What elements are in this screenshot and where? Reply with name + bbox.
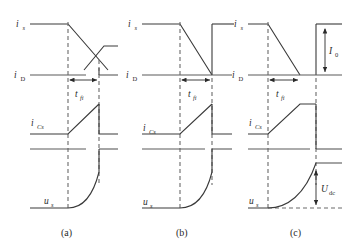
panel-b-label-id: i D <box>126 70 138 82</box>
panel-a-label-ics: i Cs <box>31 118 44 130</box>
panel-b-ics-label: i <box>143 123 146 133</box>
panel-b: i s i D i Cs u s t fi (b) <box>126 19 234 239</box>
panel-c-ics-label: i <box>249 118 252 128</box>
panel-a-tfi-sub: fi <box>80 94 84 101</box>
panel-c-voltage-trace <box>248 163 342 208</box>
panel-b-label-tfi: t fi <box>188 89 197 101</box>
panel-c-label-us: u s <box>249 196 259 208</box>
panel-a: i s i D i Cs u s t fi (a) <box>14 19 118 239</box>
panel-c-label-udc: U dc <box>321 184 335 196</box>
panel-a-caption: (a) <box>61 227 72 239</box>
panel-c-label-ics: i Cs <box>249 118 262 130</box>
panel-c-us-sub: s <box>256 201 259 208</box>
panel-c-udc-label: U <box>321 184 329 194</box>
panel-a-source-current-trace <box>30 24 118 70</box>
panel-b-is-label: i <box>128 19 131 29</box>
panel-b-caption: (b) <box>176 227 188 239</box>
panel-a-label-us: u s <box>44 196 54 208</box>
waveform-figure: i s i D i Cs u s t fi (a) <box>0 0 349 249</box>
panel-c-is-label: i <box>234 19 237 29</box>
panel-c-udc-sub: dc <box>329 189 335 196</box>
panel-c-is-sub: s <box>241 24 244 31</box>
panel-c-ics-sub: Cs <box>255 123 262 130</box>
panel-a-voltage-trace <box>30 149 99 208</box>
panel-a-device-current-axis <box>30 68 118 75</box>
panel-a-is-sub: s <box>23 24 26 31</box>
panel-c-label-is: i s <box>234 19 244 31</box>
panel-a-id-label: i <box>14 70 17 80</box>
panel-b-label-is: i s <box>128 19 138 31</box>
panel-c-i0-sub: 0 <box>335 51 338 58</box>
panel-c-label-id: i D <box>232 70 244 82</box>
panel-b-is-sub: s <box>135 24 138 31</box>
panel-c-us-label: u <box>249 196 254 206</box>
panel-a-ics-label: i <box>31 118 34 128</box>
panel-c-tfi-label: t <box>276 89 279 99</box>
panel-c-id-sub: D <box>239 75 244 82</box>
panel-c-i0-label: I <box>328 46 333 56</box>
panel-b-label-ics: i Cs <box>143 123 156 135</box>
panel-b-id-sub: D <box>133 75 138 82</box>
panel-a-label-id: i D <box>14 70 26 82</box>
panel-c-label-i0: I 0 <box>328 46 338 58</box>
panel-a-us-label: u <box>44 196 49 206</box>
panel-b-ics-sub: Cs <box>149 128 156 135</box>
panel-a-tfi-label: t <box>75 89 78 99</box>
panel-b-tfi-label: t <box>188 89 191 99</box>
panel-a-ics-sub: Cs <box>37 123 44 130</box>
panel-c-tfi-sub: fi <box>281 94 285 101</box>
panel-a-label-tfi: t fi <box>75 89 84 101</box>
panel-b-source-current-trace <box>142 24 234 75</box>
panel-b-voltage-trace <box>142 149 212 208</box>
panel-b-id-label: i <box>126 70 129 80</box>
panel-b-us-label: u <box>143 197 148 207</box>
panel-c-id-label: i <box>232 70 235 80</box>
panel-a-us-sub: s <box>51 201 54 208</box>
panel-a-is-label: i <box>16 19 19 29</box>
panel-c: i s i D i Cs u s t fi I 0 U dc (c) <box>232 19 342 239</box>
panel-c-label-tfi: t fi <box>276 89 285 101</box>
panel-a-id-sub: D <box>21 75 26 82</box>
panel-a-label-is: i s <box>16 19 26 31</box>
panel-c-caption: (c) <box>290 227 301 239</box>
panel-c-source-current-trace <box>248 24 342 75</box>
panel-b-label-us: u s <box>143 197 153 209</box>
figure-canvas: i s i D i Cs u s t fi (a) <box>0 0 349 249</box>
panel-b-tfi-sub: fi <box>193 94 197 101</box>
